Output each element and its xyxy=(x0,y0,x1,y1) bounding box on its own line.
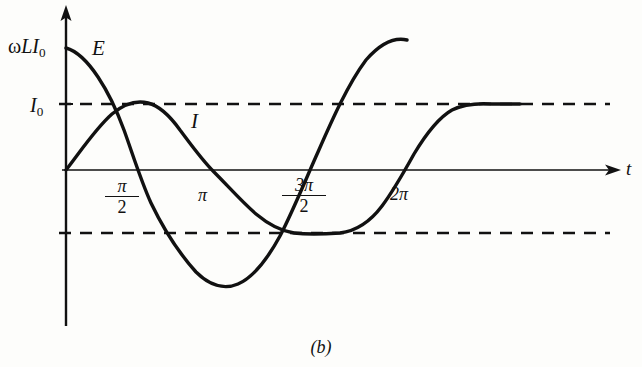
subscript-zero: 0 xyxy=(39,45,46,60)
denominator: 2 xyxy=(105,197,139,216)
denominator: 2 xyxy=(282,196,326,215)
figure-caption: (b) xyxy=(0,337,642,358)
subscript-zero: 0 xyxy=(37,104,44,119)
y-label-omega-l-i0: ωLI0 xyxy=(8,36,46,59)
y-label-i0: I0 xyxy=(30,95,43,118)
numerator: 3π xyxy=(282,176,326,196)
current-curve-label: I xyxy=(191,111,198,132)
caption-text: (b) xyxy=(311,337,332,357)
x-tick-pi-over-2: π 2 xyxy=(105,177,139,217)
emf-curve-label: E xyxy=(92,38,105,59)
L-glyph: L xyxy=(21,35,32,57)
x-tick-2pi: 2π xyxy=(390,185,408,203)
emf-curve xyxy=(66,39,407,286)
I-glyph: I xyxy=(32,35,39,57)
time-axis xyxy=(62,165,621,176)
x-tick-pi: π xyxy=(198,186,207,204)
figure-container: ωLI0 I0 E I t π 2 π 3π 2 2π (b) xyxy=(0,0,642,367)
x-tick-3pi-over-2: 3π 2 xyxy=(282,176,326,216)
x-axis-label: t xyxy=(626,159,631,178)
numerator: π xyxy=(105,177,139,197)
I-glyph: I xyxy=(30,94,37,116)
omega-glyph: ω xyxy=(8,35,21,57)
